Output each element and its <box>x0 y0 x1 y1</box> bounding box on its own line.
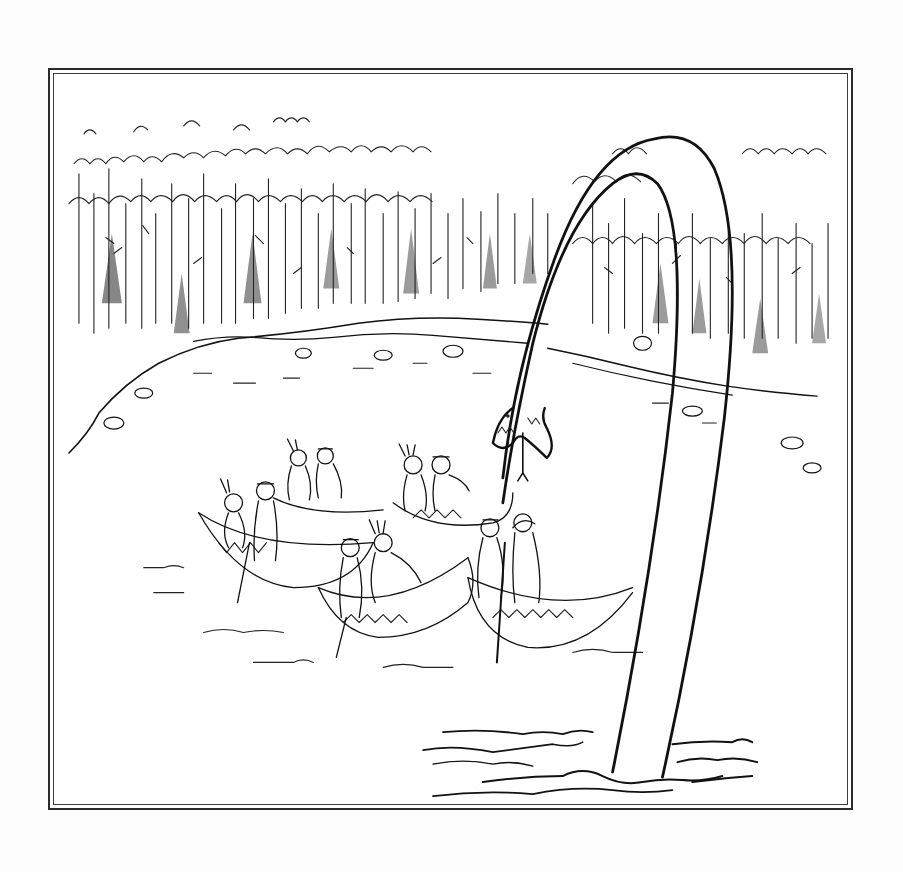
serpent <box>493 137 732 777</box>
illustration-frame: a giant long-necked sea serpent arching … <box>48 68 853 810</box>
canoe-5 <box>468 514 633 663</box>
canoe-4 <box>318 520 473 658</box>
illustration-frame-inner: a giant long-necked sea serpent arching … <box>53 73 848 805</box>
canoe-3 <box>393 444 513 525</box>
canoe-1 <box>199 479 374 603</box>
canoes <box>144 439 643 667</box>
canoe-2 <box>273 439 383 512</box>
shoreline <box>69 318 821 473</box>
ripples <box>423 731 757 796</box>
cartoon-scene <box>54 74 847 804</box>
